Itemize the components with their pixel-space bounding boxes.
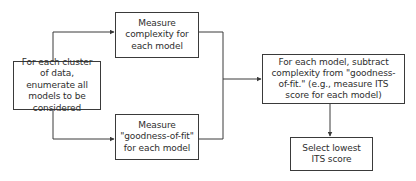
node-measure-complexity: Measure complexity for each model <box>115 12 199 58</box>
node-label: Measure complexity for each model <box>119 18 195 53</box>
flowchart-canvas: For each cluster of data, enumerate all … <box>0 0 416 181</box>
node-label: For each cluster of data, enumerate all … <box>17 57 97 115</box>
node-label: Measure "goodness-of-fit" for each model <box>119 120 195 155</box>
node-measure-goodness-of-fit: Measure "goodness-of-fit" for each model <box>115 114 199 160</box>
node-select-lowest-its: Select lowest ITS score <box>290 137 373 171</box>
node-subtract-complexity: For each model, subtract complexity from… <box>262 54 405 104</box>
node-enumerate-models: For each cluster of data, enumerate all … <box>13 61 101 110</box>
edge-merge-bracket <box>198 32 223 139</box>
node-label: For each model, subtract complexity from… <box>266 57 401 101</box>
node-label: Select lowest ITS score <box>299 143 364 166</box>
